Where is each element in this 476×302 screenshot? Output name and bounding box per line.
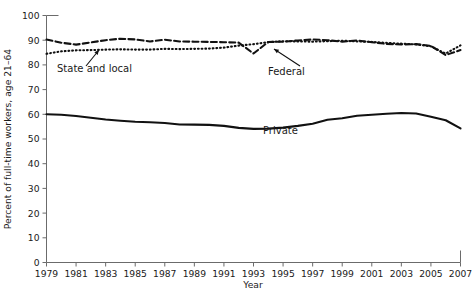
x-tick-label: 2005 <box>419 268 443 279</box>
y-tick-label: 70 <box>28 84 40 95</box>
series-annotations: State and localFederalPrivate <box>57 49 305 136</box>
series-line-state-and-local <box>47 41 461 54</box>
y-tick-label: 60 <box>28 109 40 120</box>
x-tick-label: 1993 <box>242 268 266 279</box>
chart-figure: 0102030405060708090100 19791981198319851… <box>0 0 476 302</box>
x-tick-label: 1985 <box>124 268 148 279</box>
x-axis: 1979198119831985198719891991199319951997… <box>35 263 473 279</box>
x-tick-label: 1999 <box>331 268 355 279</box>
x-tick-label: 1995 <box>271 268 295 279</box>
x-tick-label: 2003 <box>390 268 414 279</box>
x-tick-label: 2007 <box>449 268 473 279</box>
x-tick-label: 2001 <box>360 268 383 279</box>
y-tick-label: 40 <box>28 158 40 169</box>
y-tick-label: 80 <box>28 59 40 70</box>
x-tick-label: 1979 <box>35 268 59 279</box>
y-tick-label: 20 <box>28 208 40 219</box>
y-tick-label: 50 <box>28 133 40 144</box>
series-line-federal <box>47 39 461 55</box>
annotation-label-state-and-local: State and local <box>57 63 132 74</box>
x-tick-label: 1989 <box>183 268 207 279</box>
series-line-private <box>47 113 461 129</box>
x-tick-label: 1981 <box>64 268 87 279</box>
x-axis-title: Year <box>242 279 263 290</box>
annotation-label-private: Private <box>263 125 298 136</box>
annotation-label-federal: Federal <box>268 66 305 77</box>
x-tick-label: 1983 <box>94 268 118 279</box>
y-tick-label: 10 <box>28 232 40 243</box>
x-tick-label: 1991 <box>212 268 235 279</box>
x-tick-label: 1997 <box>301 268 325 279</box>
line-chart: 0102030405060708090100 19791981198319851… <box>0 0 476 302</box>
x-tick-label: 1987 <box>153 268 177 279</box>
y-axis: 0102030405060708090100 <box>22 10 47 268</box>
y-tick-label: 0 <box>34 257 40 268</box>
y-tick-label: 30 <box>28 183 40 194</box>
y-axis-title: Percent of full-time workers, age 21–64 <box>2 49 13 230</box>
y-tick-label: 90 <box>28 35 40 46</box>
series-lines <box>47 39 461 129</box>
y-tick-label: 100 <box>22 10 40 21</box>
annotation-arrowhead-federal <box>274 49 279 53</box>
